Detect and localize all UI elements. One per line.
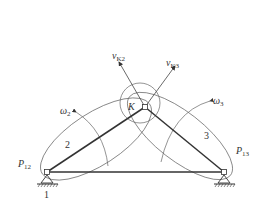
label-p13: P13 bbox=[236, 146, 249, 158]
label-v-k3: vK3 bbox=[166, 58, 179, 70]
joint-p13 bbox=[222, 170, 227, 175]
label-point-k: K bbox=[128, 102, 135, 112]
label-link-3: 3 bbox=[204, 131, 209, 141]
ground-support-right bbox=[214, 175, 235, 187]
label-omega2: ω2 bbox=[60, 106, 71, 118]
omega2-arc bbox=[76, 112, 108, 166]
joint-p12 bbox=[45, 170, 50, 175]
point-k-outline bbox=[120, 83, 160, 123]
label-omega3: ω3 bbox=[213, 96, 224, 108]
mechanism-diagram: vK2 vK3 K ω2 ω3 2 3 P12 P13 1 bbox=[0, 0, 264, 210]
ground-support-left bbox=[37, 175, 58, 187]
label-link-2: 2 bbox=[65, 140, 70, 150]
label-ground-1: 1 bbox=[44, 190, 49, 200]
label-v-k2: vK2 bbox=[112, 51, 125, 63]
link-3 bbox=[145, 107, 224, 172]
label-p12: P12 bbox=[18, 159, 31, 171]
joint-k bbox=[143, 105, 148, 110]
